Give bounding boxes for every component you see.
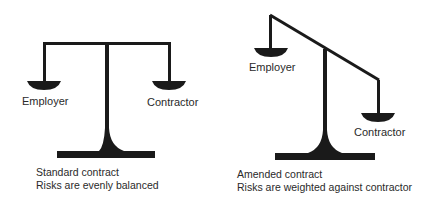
caption-description: Risks are evenly balanced — [36, 179, 159, 192]
employer-label: Employer — [249, 61, 295, 73]
post — [308, 49, 342, 153]
left-pan — [27, 81, 61, 90]
employer-label: Employer — [22, 95, 68, 107]
base — [275, 153, 375, 160]
contractor-label: Contractor — [354, 126, 405, 138]
post — [99, 44, 124, 151]
right-pan — [361, 113, 395, 122]
left-pan — [254, 48, 288, 57]
contractor-label: Contractor — [147, 96, 198, 108]
right-hanger — [168, 42, 171, 82]
caption-description: Risks are weighted against contractor — [237, 181, 412, 194]
caption-title: Amended contract — [237, 168, 322, 181]
left-hanger — [43, 42, 46, 82]
right-hanger — [377, 80, 380, 114]
left-hanger — [269, 15, 272, 49]
caption-title: Standard contract — [36, 166, 119, 179]
right-pan — [152, 81, 186, 90]
tilted-scale-icon — [254, 15, 395, 160]
base — [57, 151, 155, 158]
